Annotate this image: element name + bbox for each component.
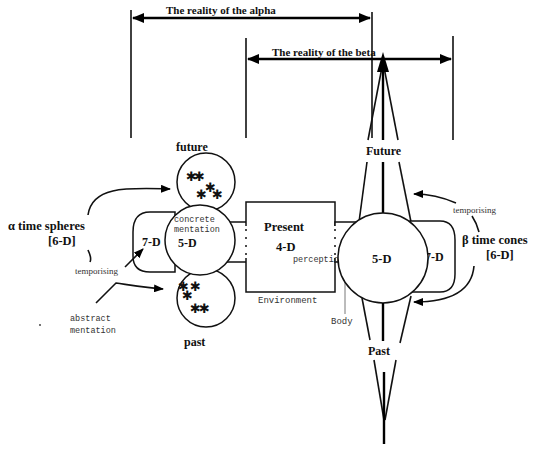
cone-edge xyxy=(385,360,396,420)
present-title: Present xyxy=(264,220,305,234)
star-icon: ✱ xyxy=(199,301,210,316)
stray-dot xyxy=(39,324,41,326)
perception-label: perception xyxy=(293,255,344,265)
concrete-mentation-line1: concrete xyxy=(174,215,215,225)
beta-temporising-label: temporising xyxy=(453,205,496,215)
cone-edge xyxy=(368,62,383,140)
beta-past-label: Past xyxy=(368,344,390,358)
beta-time-cones: Future 7-D 5-D Past temporising β time c… xyxy=(338,52,528,444)
cone-edge xyxy=(359,162,367,222)
alpha-time-spheres: future ✱ ✱ ✱ ✱ ✱ ✱ ✱ ✱ ✱ ✱ past 7-D conc… xyxy=(8,140,248,349)
cone-edge xyxy=(374,360,384,420)
future-arrowhead-icon xyxy=(377,52,389,72)
abstract-mentation-line2: mentation xyxy=(70,326,116,336)
present-dimension: 4-D xyxy=(276,240,295,254)
cone-edge xyxy=(400,296,411,343)
alpha-reality-label: The reality of the alpha xyxy=(166,4,276,16)
abstract-mentation-line1: abstract xyxy=(70,314,111,324)
alpha-reality-bracket: The reality of the alpha xyxy=(131,4,372,138)
beta-reality-bracket: The reality of the beta xyxy=(246,36,453,140)
alpha-time-spheres-label: α time spheres xyxy=(8,219,85,233)
beta-future-label: Future xyxy=(366,144,402,158)
temporising-stub xyxy=(472,216,479,232)
beta-time-cones-label: β time cones xyxy=(462,233,528,247)
alpha-future-arrow xyxy=(88,188,170,215)
concrete-mentation-line2: mentation xyxy=(174,225,220,235)
temporising-stub xyxy=(88,250,91,262)
beta-dimension-label: [6-D] xyxy=(486,248,514,262)
star-icon: ✱ xyxy=(196,187,207,202)
beta-5d-label: 5-D xyxy=(372,252,391,266)
beta-reality-label: The reality of the beta xyxy=(272,46,376,58)
reality-diagram: The reality of the alpha The reality of … xyxy=(0,0,543,454)
cone-edge xyxy=(399,162,411,222)
abstract-mentation-arrow xyxy=(96,283,163,303)
body-label: Body xyxy=(331,317,353,327)
alpha-future-label: future xyxy=(176,140,208,154)
cone-edge xyxy=(362,298,370,340)
alpha-past-label: past xyxy=(184,335,205,349)
star-icon: ✱ xyxy=(212,187,223,202)
cone-edge xyxy=(383,62,398,140)
alpha-7d-label: 7-D xyxy=(142,235,161,249)
alpha-temporising-label: temporising xyxy=(75,266,118,276)
alpha-5d-label: 5-D xyxy=(178,236,197,250)
alpha-dimension-label: [6-D] xyxy=(48,234,76,248)
beta-future-arrow xyxy=(414,194,456,203)
star-icon: ✱ xyxy=(194,169,205,184)
environment-label: Environment xyxy=(258,296,317,306)
